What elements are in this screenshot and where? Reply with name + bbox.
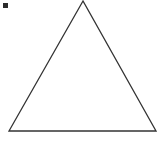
triangle-diagram	[0, 0, 157, 146]
triangle-shape	[9, 1, 156, 131]
